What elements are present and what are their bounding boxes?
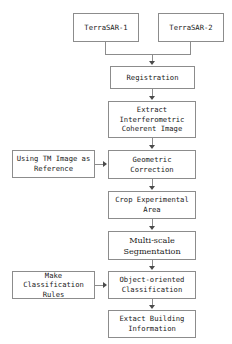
arrowhead-to-extract-coherent — [149, 96, 155, 100]
node-extract-coherent-image: Extract Interferometric Coherent Image — [108, 101, 196, 138]
node-geometric-correction: Geometric Correction — [108, 150, 196, 179]
connector-terrasar2-down — [190, 42, 191, 54]
arrowhead-to-registration — [149, 61, 155, 65]
node-object-oriented-classification: Object-oriented Classification — [108, 271, 196, 299]
arrowhead-to-geometric-correction — [149, 145, 155, 149]
connector-terrasar1-down — [105, 42, 106, 54]
connector-merge-horizontal — [105, 54, 191, 55]
node-crop-experimental-area: Crop Experimental Area — [108, 191, 196, 219]
node-terrasar-1: TerraSAR-1 — [73, 13, 139, 42]
arrowhead-to-extract-building — [149, 305, 155, 309]
arrowhead-tm-to-geometric — [103, 161, 107, 167]
flowchart-diagram: TerraSAR-1 TerraSAR-2 Registration Extra… — [0, 0, 232, 344]
node-terrasar-2: TerraSAR-2 — [158, 13, 224, 42]
node-extract-building-information: Extact Building Information — [108, 310, 196, 338]
node-multiscale-segmentation: Multi-scale Segmentation — [108, 231, 196, 260]
arrowhead-to-object-classification — [149, 266, 155, 270]
arrowhead-to-crop-area — [149, 186, 155, 190]
node-registration: Registration — [110, 66, 195, 89]
arrowhead-rules-to-classification — [103, 282, 107, 288]
arrowhead-to-segmentation — [149, 226, 155, 230]
node-make-classification-rules: Make Classification Rules — [12, 271, 95, 299]
node-tm-image-reference: Using TM Image as Reference — [12, 150, 95, 178]
